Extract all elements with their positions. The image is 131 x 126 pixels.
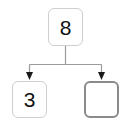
tree-node-left-child[interactable]: 3 bbox=[12, 81, 47, 118]
diagram-canvas: 8 3 bbox=[0, 0, 131, 126]
edge-root-to-children bbox=[26, 46, 105, 80]
arrowhead-left-icon bbox=[26, 72, 33, 80]
tree-node-right-child[interactable] bbox=[84, 81, 119, 118]
arrowhead-right-icon bbox=[98, 72, 105, 80]
tree-node-left-child-label: 3 bbox=[24, 89, 36, 110]
tree-node-root-label: 8 bbox=[60, 17, 72, 38]
tree-node-root[interactable]: 8 bbox=[48, 8, 83, 46]
